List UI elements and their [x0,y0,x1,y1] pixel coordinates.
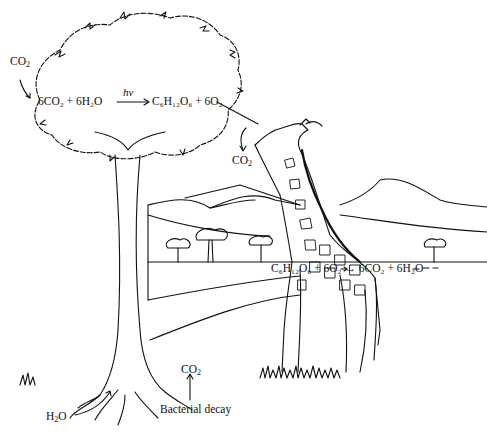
label-photosynthesis-products: C₆H₁₂O₆ + 6O₂ [152,96,223,108]
grass [20,366,340,385]
label-photosynthesis-reactants: 6CO₂ + 6H₂O [38,96,102,108]
label-h2o: H2O [46,411,67,423]
tree-canopy [35,13,241,159]
arrow-co2-into-leaf [20,80,30,98]
label-co2-from-leaf: CO2 [232,155,252,167]
arrow-h2o-to-roots [75,392,110,415]
label-light-energy: hν [123,86,133,98]
label-co2-decay: CO2 [181,364,201,376]
tree [35,12,243,425]
label-respiration-equation: C₆H₁₂O₆ + 6O₂ → 6CO₂ + 6H₂O [271,263,423,275]
line-art [0,0,487,437]
giraffe [255,119,380,372]
carbon-cycle-illustration: CO2 6CO₂ + 6H₂O hν C₆H₁₂O₆ + 6O₂ CO2 C₆H… [0,0,487,437]
acacia-trees [166,228,446,262]
label-co2-atmosphere: CO2 [10,56,30,68]
arrow-o2-to-giraffe [217,102,258,124]
label-bacterial-decay: Bacterial decay [160,404,231,416]
